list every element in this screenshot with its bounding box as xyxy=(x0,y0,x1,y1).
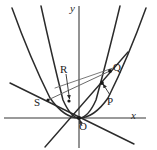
leader-line-r xyxy=(66,74,70,99)
x-axis-label: x xyxy=(131,110,136,121)
leader-line-p xyxy=(103,84,110,95)
point-marker-r xyxy=(67,99,70,102)
line-through-origin-shallow xyxy=(10,83,134,144)
point-marker-p xyxy=(100,81,104,85)
point-label-s: S xyxy=(34,97,40,108)
point-marker-s xyxy=(46,98,49,101)
point-label-o: O xyxy=(79,121,87,132)
geometry-figure: y x O P Q R S xyxy=(0,0,157,150)
point-label-q: Q xyxy=(113,62,121,73)
chord-S-Q xyxy=(48,70,112,100)
point-marker-q xyxy=(108,69,112,73)
point-label-p: P xyxy=(107,96,113,107)
axes-group xyxy=(4,6,146,148)
y-axis-label: y xyxy=(70,3,75,14)
point-label-r: R xyxy=(60,64,67,75)
